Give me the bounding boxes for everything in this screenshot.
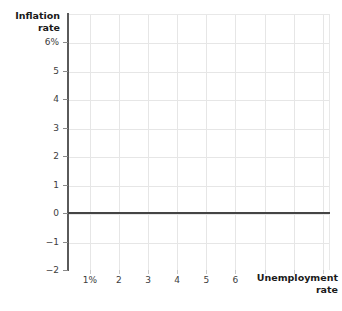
x-axis-tick <box>265 270 266 274</box>
gridline-horizontal <box>68 43 329 44</box>
y-axis-tick <box>63 185 68 186</box>
x-axis-tick-label: 4 <box>174 275 180 285</box>
y-axis-tick-label: 6% <box>45 37 59 47</box>
y-axis-line <box>67 13 69 271</box>
gridline-vertical <box>265 15 266 270</box>
y-axis-tick <box>63 242 68 243</box>
y-axis-tick-label: 5 <box>53 66 59 76</box>
gridline-vertical <box>148 15 149 270</box>
x-axis-tick <box>119 270 120 274</box>
y-axis-tick <box>63 99 68 100</box>
gridline-horizontal <box>68 186 329 187</box>
y-axis-tick-label: −1 <box>46 237 59 247</box>
x-axis-tick-label: 3 <box>145 275 151 285</box>
x-axis-tick <box>177 270 178 274</box>
x-axis-tick <box>148 270 149 274</box>
y-axis-tick-label: 0 <box>53 208 59 218</box>
x-axis-tick <box>90 270 91 274</box>
gridline-vertical <box>323 15 324 270</box>
y-axis-tick <box>63 270 68 271</box>
y-axis-tick-label: 1 <box>53 180 59 190</box>
x-axis-tick <box>294 270 295 274</box>
gridline-vertical <box>90 15 91 270</box>
gridline-horizontal <box>68 129 329 130</box>
y-axis-tick <box>63 128 68 129</box>
x-axis-tick-label: 6 <box>233 275 239 285</box>
gridline-horizontal <box>68 214 329 215</box>
x-axis-tick <box>323 270 324 274</box>
x-axis-title: Unemployment rate <box>248 272 338 295</box>
gridline-vertical <box>119 15 120 270</box>
zero-reference-line <box>68 212 330 214</box>
y-axis-tick <box>63 213 68 214</box>
x-axis-tick-label: 2 <box>116 275 122 285</box>
gridline-vertical <box>206 15 207 270</box>
y-axis-tick-label: 3 <box>53 123 59 133</box>
x-axis-tick <box>206 270 207 274</box>
x-axis-tick-label: 1% <box>83 275 97 285</box>
y-axis-tick <box>63 42 68 43</box>
gridline-horizontal <box>68 157 329 158</box>
phillips-curve-chart: Inflation rate Unemployment rate 6%54321… <box>0 0 342 311</box>
y-axis-tick-label: 4 <box>53 94 59 104</box>
x-axis-tick <box>235 270 236 274</box>
gridline-horizontal <box>68 243 329 244</box>
x-axis-tick-label: 5 <box>203 275 209 285</box>
gridline-vertical <box>177 15 178 270</box>
y-axis-title: Inflation rate <box>2 10 60 33</box>
gridline-vertical <box>235 15 236 270</box>
y-axis-tick <box>63 71 68 72</box>
y-axis-tick-label: 2 <box>53 151 59 161</box>
y-axis-tick-label: −2 <box>46 265 59 275</box>
gridline-vertical <box>294 15 295 270</box>
plot-area <box>68 14 330 270</box>
gridline-horizontal <box>68 100 329 101</box>
gridline-horizontal <box>68 72 329 73</box>
y-axis-tick <box>63 156 68 157</box>
